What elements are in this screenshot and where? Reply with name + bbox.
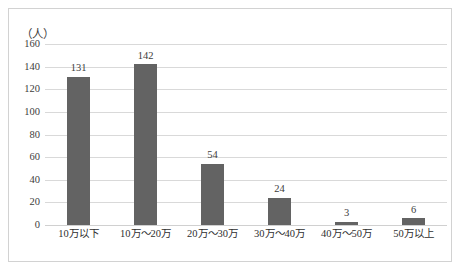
chart-screenshot: （人） 020406080100120140160131142542436 10… (0, 0, 463, 272)
bar-value-label: 24 (274, 184, 285, 195)
x-axis-category-label: 30万～40万 (246, 228, 313, 240)
y-axis-tick-label: 60 (30, 152, 41, 163)
y-axis-tick-label: 40 (30, 175, 41, 186)
bar-slot: 131 (45, 44, 112, 225)
bar[interactable]: 6 (402, 218, 425, 225)
bar-slot: 54 (179, 44, 246, 225)
y-axis-tick-label: 120 (24, 84, 40, 95)
y-axis-tick-label: 20 (30, 197, 41, 208)
bar[interactable]: 142 (134, 64, 157, 225)
bars-layer: 131142542436 (45, 44, 447, 225)
bar-value-label: 3 (344, 208, 349, 219)
bar-slot: 6 (380, 44, 447, 225)
x-axis-category-label: 10万～20万 (112, 228, 179, 240)
y-axis-tick-label: 0 (35, 220, 40, 231)
bar[interactable]: 54 (201, 164, 224, 225)
x-axis-labels: 10万以下10万～20万20万～30万30万～40万40万～50万50万以上 (45, 228, 447, 240)
x-axis-category-label: 20万～30万 (179, 228, 246, 240)
bar-slot: 24 (246, 44, 313, 225)
bar-slot: 3 (313, 44, 380, 225)
gridline (45, 225, 447, 226)
bar[interactable]: 24 (268, 198, 291, 225)
y-axis-tick-label: 80 (30, 130, 41, 141)
bar-value-label: 6 (411, 205, 416, 216)
bar[interactable]: 131 (67, 77, 90, 225)
bar-value-label: 142 (138, 51, 154, 62)
x-axis-category-label: 50万以上 (380, 228, 447, 240)
bar-slot: 142 (112, 44, 179, 225)
x-axis-category-label: 40万～50万 (313, 228, 380, 240)
y-axis-tick-label: 100 (24, 107, 40, 118)
y-axis-tick-label: 140 (24, 62, 40, 73)
plot-area: 020406080100120140160131142542436 (45, 44, 447, 225)
chart-frame: （人） 020406080100120140160131142542436 10… (8, 8, 452, 262)
bar[interactable]: 3 (335, 222, 358, 225)
bar-value-label: 54 (207, 150, 218, 161)
bar-value-label: 131 (71, 63, 87, 74)
y-axis-tick-label: 160 (24, 39, 40, 50)
x-axis-category-label: 10万以下 (45, 228, 112, 240)
